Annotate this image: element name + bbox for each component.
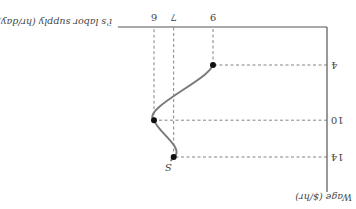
y-tick-label: 4 (331, 60, 337, 71)
y-tick-label: 10 (331, 115, 344, 126)
x-tick-label: 6 (151, 12, 157, 23)
x-tick-label: 9 (210, 12, 216, 23)
x-axis-label: i's labor supply (hr/day) (0, 17, 112, 28)
y-tick-label: 14 (331, 152, 344, 163)
curve-label-s: S (165, 162, 172, 173)
labor-supply-chart: Wage ($/hr) i's labor supply (hr/day) 41… (0, 0, 356, 209)
supply-curve (152, 63, 212, 161)
chart-stage: Wage ($/hr) i's labor supply (hr/day) 41… (0, 0, 356, 209)
data-point (171, 154, 177, 160)
data-points (151, 62, 216, 160)
y-axis-label: Wage ($/hr) (295, 192, 352, 203)
data-point (210, 62, 216, 68)
tick-labels: 41014679 (151, 12, 344, 163)
x-tick-label: 7 (170, 12, 176, 23)
data-point (151, 117, 157, 123)
